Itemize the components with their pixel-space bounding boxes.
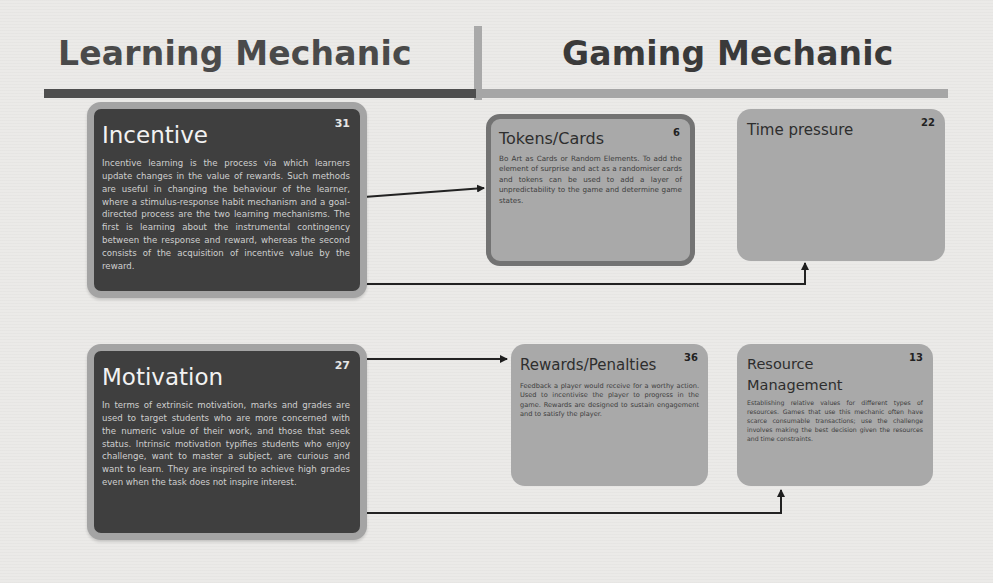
gaming-card-rewards-penalties[interactable]: 36 Rewards/Penalties Feedback a player w… [511, 344, 708, 486]
arrow-motivation-to-resource-management [364, 490, 781, 513]
card-description: In terms of extrinsic motivation, marks … [102, 399, 350, 489]
card-title: Motivation [102, 363, 350, 393]
learning-card-motivation[interactable]: 27 Motivation In terms of extrinsic moti… [87, 344, 367, 540]
card-title: Rewards/Penalties [520, 356, 699, 376]
arrow-incentive-to-time-pressure [364, 263, 805, 284]
learning-card-incentive[interactable]: 31 Incentive Incentive learning is the p… [87, 102, 367, 298]
gaming-card-resource-management[interactable]: 13 Resource Management Establishing rela… [737, 344, 933, 486]
card-description: Establishing relative values for differe… [747, 399, 923, 444]
gaming-card-tokens-cards[interactable]: 6 Tokens/Cards Bo Art as Cards or Random… [486, 114, 695, 266]
card-description: Incentive learning is the process via wh… [102, 157, 350, 273]
diagram-canvas: Learning Mechanic Gaming Mechanic 31 Inc… [0, 0, 993, 583]
card-title: Resource Management [747, 354, 867, 396]
card-title: Time pressure [747, 121, 935, 141]
card-title: Incentive [102, 121, 350, 151]
card-description: Feedback a player would receive for a wo… [520, 382, 699, 420]
arrow-incentive-to-tokens-cards [364, 188, 484, 197]
card-title: Tokens/Cards [499, 129, 682, 150]
gaming-card-time-pressure[interactable]: 22 Time pressure [737, 109, 945, 261]
card-description: Bo Art as Cards or Random Elements. To a… [499, 154, 682, 206]
